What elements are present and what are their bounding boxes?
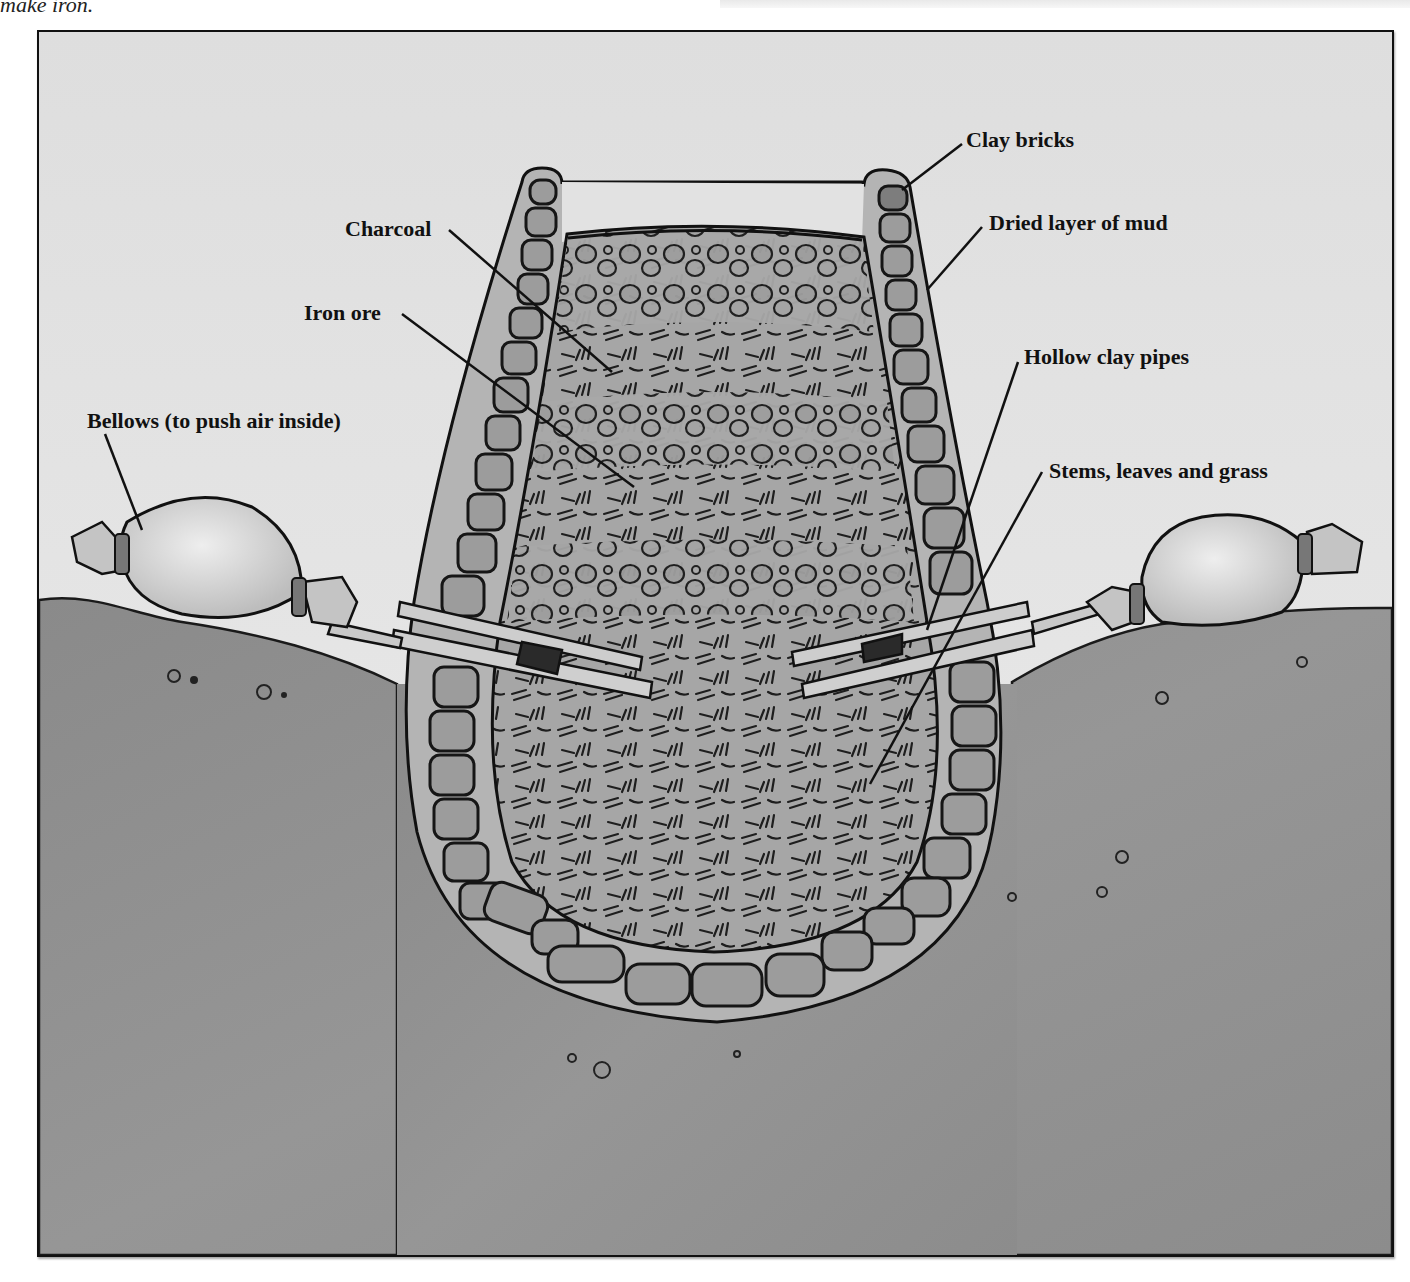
label-hollow-pipes: Hollow clay pipes <box>1024 346 1189 368</box>
furnace-illustration <box>39 32 1392 1255</box>
label-dried-mud: Dried layer of mud <box>989 212 1168 234</box>
label-charcoal: Charcoal <box>345 218 431 240</box>
top-divider <box>720 0 1410 8</box>
label-bellows: Bellows (to push air inside) <box>87 410 341 432</box>
label-clay-bricks: Clay bricks <box>966 129 1074 151</box>
label-iron-ore: Iron ore <box>304 302 381 324</box>
furnace-diagram: Clay bricks Dried layer of mud Charcoal … <box>37 30 1394 1257</box>
label-stems: Stems, leaves and grass <box>1049 460 1268 482</box>
caption-fragment: make iron. <box>0 0 93 18</box>
